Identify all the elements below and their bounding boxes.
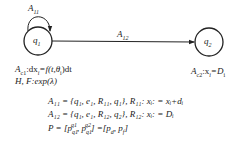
equation-a12: A₁₂ = {q₁, e₁, R₁₂, q₂}, R₁₂: xᵢ: = Dᵢ	[48, 109, 174, 120]
state-q2-label: q2	[204, 36, 212, 47]
equation-a11: A₁₁ = {q₁, e₁, R₁₁, q₁}, R₁₁: xᵢ: = xᵢ+d…	[48, 96, 183, 107]
state-q1-label: q1	[33, 35, 41, 46]
q1-flow-equation: Ac1:dxi=f(t,θi)dt	[15, 64, 72, 75]
q2-equation: Ac2:xi=Di	[191, 66, 225, 77]
transition-q1-q2-label: A12	[117, 29, 129, 40]
equation-p: P = [pq1q1, pq1q2] =[pd, pf]	[48, 123, 128, 134]
transition-q1-q2-arrow	[52, 41, 194, 42]
q1-distribution: H, F:exp(λ)	[15, 76, 57, 87]
self-loop-label: A11	[28, 3, 39, 14]
